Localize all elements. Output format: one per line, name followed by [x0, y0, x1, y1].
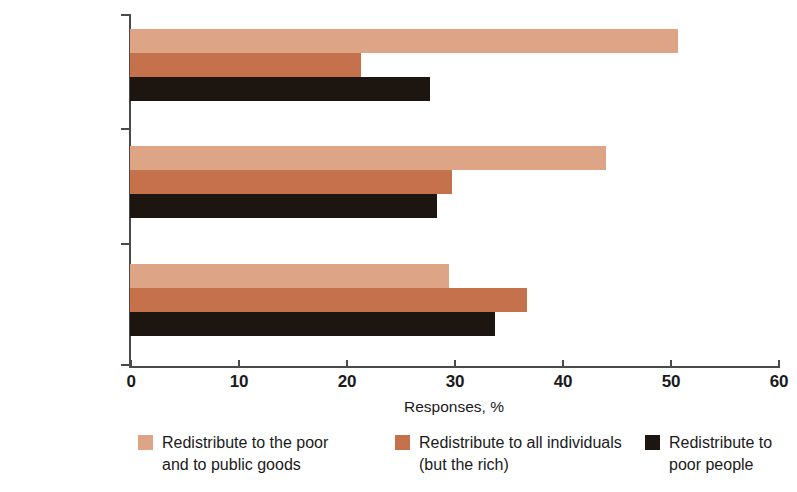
x-axis-tick-label-10: 10 [209, 372, 269, 392]
x-axis-tick-0 [130, 360, 132, 368]
bar-chart: Higher middle Middle Lower middle 0 10 2… [0, 0, 797, 492]
x-axis-tick-60 [778, 360, 780, 368]
x-axis-tick-label-0: 0 [101, 372, 161, 392]
x-axis-tick-label-20: 20 [317, 372, 377, 392]
legend-label-series-0: Redistribute to the poor and to public g… [162, 432, 328, 476]
legend-swatch-icon-series-1 [395, 435, 410, 450]
x-axis-tick-20 [346, 360, 348, 368]
x-axis-tick-label-30: 30 [425, 372, 485, 392]
bar-middle-series-1 [130, 170, 452, 194]
legend-item-redistribute-poor-public-goods: Redistribute to the poor and to public g… [138, 432, 328, 476]
x-axis-tick-30 [454, 360, 456, 368]
x-axis-tick-10 [238, 360, 240, 368]
bar-higher-middle-series-2 [130, 77, 430, 101]
bar-lower-middle-series-0 [130, 264, 449, 288]
bar-group-higher-middle: Higher middle [130, 14, 778, 128]
bar-group-middle: Middle [130, 128, 778, 243]
x-axis-tick-50 [670, 360, 672, 368]
y-axis-tick-2 [121, 243, 130, 245]
x-axis-title: Responses, % [130, 398, 778, 416]
bar-higher-middle-series-1 [130, 53, 361, 77]
bar-higher-middle-series-0 [130, 29, 678, 53]
bar-group-lower-middle: Lower middle [130, 243, 778, 366]
legend-swatch-icon-series-2 [645, 435, 660, 450]
plot-area: Higher middle Middle Lower middle [130, 14, 778, 366]
x-axis-tick-label-50: 50 [641, 372, 701, 392]
legend-label-series-2: Redistribute to poor people [669, 432, 772, 476]
y-axis-tick-bottom [121, 364, 130, 366]
chart-legend: Redistribute to the poor and to public g… [0, 432, 797, 492]
legend-swatch-icon-series-0 [138, 435, 153, 450]
bar-middle-series-2 [130, 194, 437, 218]
y-axis-tick-1 [121, 128, 130, 130]
legend-item-redistribute-all-individuals: Redistribute to all individuals (but the… [395, 432, 622, 476]
bar-lower-middle-series-1 [130, 288, 527, 312]
x-axis-tick-label-40: 40 [533, 372, 593, 392]
bar-lower-middle-series-2 [130, 312, 495, 336]
bar-middle-series-0 [130, 146, 606, 170]
legend-item-redistribute-poor-people: Redistribute to poor people [645, 432, 772, 476]
y-axis-tick-top [121, 14, 130, 16]
legend-label-series-1: Redistribute to all individuals (but the… [419, 432, 622, 476]
x-axis-tick-label-60: 60 [749, 372, 797, 392]
x-axis-tick-40 [562, 360, 564, 368]
